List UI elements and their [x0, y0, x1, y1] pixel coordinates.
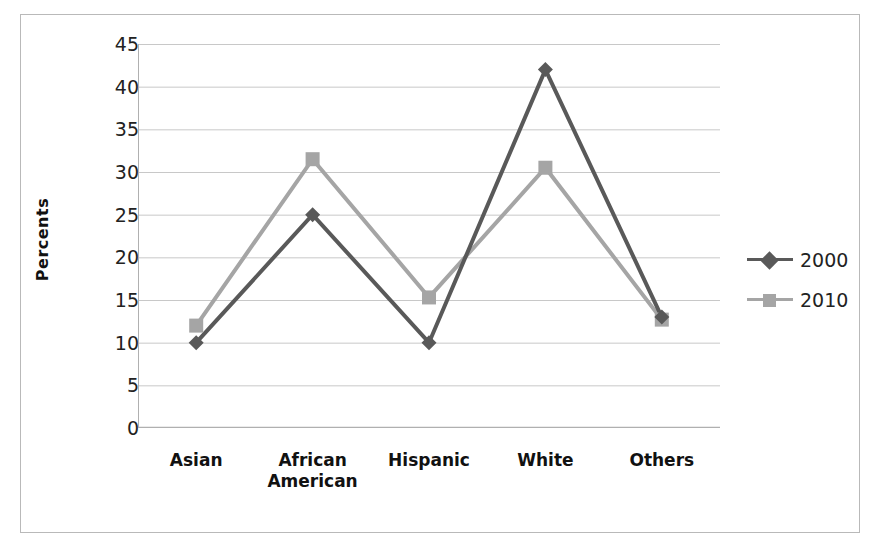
legend-label: 2000 — [800, 251, 848, 270]
series-svg — [138, 44, 720, 428]
y-tick-label: 5 — [95, 376, 139, 395]
diamond-marker-icon — [760, 251, 778, 269]
plot-area — [138, 44, 720, 428]
data-point-marker — [189, 319, 203, 333]
y-tick-label: 45 — [95, 35, 139, 54]
chart-legend: 2000 2010 — [747, 240, 857, 320]
y-tick-label: 20 — [95, 248, 139, 267]
y-tick-label: 15 — [95, 291, 139, 310]
legend-item[interactable]: 2000 — [747, 240, 857, 280]
y-axis-title: Percents — [33, 180, 52, 300]
data-point-marker — [422, 290, 436, 304]
x-tick-label: Others — [587, 450, 737, 471]
legend-label: 2010 — [800, 291, 848, 310]
data-point-marker — [538, 62, 553, 77]
square-marker-icon — [763, 294, 776, 307]
y-tick-label: 30 — [95, 163, 139, 182]
chart-frame: Percents 051015202530354045 AsianAfrican… — [20, 14, 860, 533]
y-tick-label: 25 — [95, 205, 139, 224]
chart-canvas: Percents 051015202530354045 AsianAfrican… — [21, 15, 859, 532]
y-tick-label: 35 — [95, 120, 139, 139]
y-tick-label: 40 — [95, 77, 139, 96]
data-point-marker — [538, 161, 552, 175]
y-tick-label: 0 — [95, 419, 139, 438]
legend-item[interactable]: 2010 — [747, 280, 857, 320]
data-point-marker — [306, 152, 320, 166]
y-tick-label: 10 — [95, 333, 139, 352]
legend-key-2010 — [747, 293, 793, 307]
legend-key-2000 — [747, 253, 793, 267]
